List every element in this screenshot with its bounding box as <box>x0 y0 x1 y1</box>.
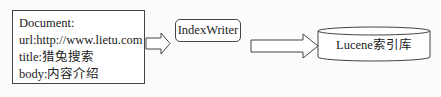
document-body-field: body:内容介绍 <box>19 66 144 83</box>
index-writer-node: IndexWriter <box>175 19 241 42</box>
block-arrow-icon <box>251 34 318 58</box>
document-url-field: url:http://www.lietu.com <box>19 32 144 49</box>
document-box: Document: url:http://www.lietu.com title… <box>12 10 145 84</box>
block-arrow-icon <box>146 33 170 54</box>
lucene-index-label: Lucene索引库 <box>318 33 430 57</box>
document-header: Document: <box>19 15 144 32</box>
document-title-field: title:猎兔搜索 <box>19 49 144 66</box>
